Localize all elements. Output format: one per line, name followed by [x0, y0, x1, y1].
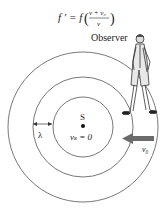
source-velocity-label: vₛ = 0 — [70, 132, 93, 142]
doppler-formula: f ′ = f ( v + v₀ v ) — [58, 9, 115, 28]
source-dot — [81, 124, 85, 128]
observer-velocity-label: v₀ — [142, 145, 149, 154]
observer-label: Observer — [91, 32, 128, 43]
observer-velocity-arrow — [122, 133, 154, 144]
observer-figure-icon — [122, 35, 157, 115]
right-paren: ) — [110, 11, 115, 27]
formula-lhs: f ′ = f — [58, 11, 84, 23]
formula-numerator: v + v₀ — [89, 9, 106, 17]
doppler-diagram: f ′ = f ( v + v₀ v ) S vₛ = 0 λ v₀ Obser… — [0, 0, 167, 210]
formula-denominator: v — [97, 20, 101, 28]
source-label: S — [80, 112, 85, 122]
wavelength-marker: λ — [33, 122, 52, 140]
wavelength-label: λ — [38, 130, 43, 140]
